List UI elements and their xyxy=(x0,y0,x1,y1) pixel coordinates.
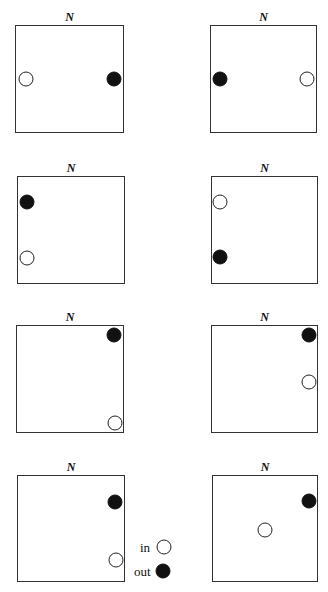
north-label: N xyxy=(65,11,74,23)
arena-box xyxy=(211,176,318,284)
arena-box xyxy=(17,475,125,582)
in-circle-icon xyxy=(300,72,315,87)
in-circle-icon xyxy=(302,375,317,390)
in-circle-icon xyxy=(19,72,34,87)
in-circle-icon xyxy=(108,416,123,431)
out-circle-icon xyxy=(20,195,35,210)
legend-out-circle-icon xyxy=(156,564,171,579)
in-circle-icon xyxy=(258,523,273,538)
north-label: N xyxy=(261,461,270,473)
out-circle-icon xyxy=(107,328,122,343)
in-circle-icon xyxy=(20,251,35,266)
in-circle-icon xyxy=(213,195,228,210)
north-label: N xyxy=(66,311,75,323)
legend-in-circle-icon xyxy=(157,540,172,555)
arena-box xyxy=(17,176,125,284)
north-label: N xyxy=(67,162,76,174)
out-circle-icon xyxy=(302,328,317,343)
legend-out-label: out xyxy=(134,565,151,578)
north-label: N xyxy=(260,162,269,174)
legend-in-label: in xyxy=(140,541,150,554)
in-circle-icon xyxy=(109,553,124,568)
out-circle-icon xyxy=(108,495,123,510)
out-circle-icon xyxy=(213,250,228,265)
out-circle-icon xyxy=(302,494,317,509)
north-label: N xyxy=(260,311,269,323)
arena-box xyxy=(16,325,124,433)
out-circle-icon xyxy=(213,72,228,87)
out-circle-icon xyxy=(107,72,122,87)
north-label: N xyxy=(67,461,76,473)
north-label: N xyxy=(259,11,268,23)
